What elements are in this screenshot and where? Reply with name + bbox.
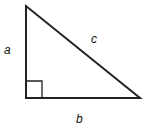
triangle — [26, 6, 140, 98]
right-triangle-diagram: a c b — [0, 0, 147, 129]
label-side-a: a — [4, 43, 11, 57]
label-side-c: c — [91, 32, 97, 46]
label-side-b: b — [76, 112, 83, 126]
right-angle-marker — [26, 81, 42, 98]
